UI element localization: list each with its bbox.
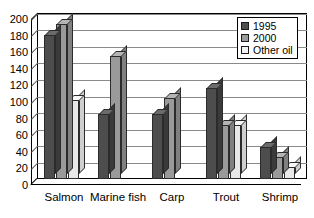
bar-chart: 200180160140120100806040200 SalmonMarine… [0, 0, 314, 218]
y-tick-label: 40 [16, 146, 28, 157]
bar-carp-1995 [152, 114, 163, 179]
bar-front-face [206, 88, 217, 179]
bar-group-marine-fish [91, 13, 145, 179]
bar-side-face [55, 24, 61, 174]
bar-shrimp-1995 [260, 147, 271, 179]
legend-item-2000: 2000 [241, 32, 293, 44]
bar-marine-fish-1995 [98, 114, 109, 179]
y-tick-label: 120 [10, 80, 28, 91]
y-tick-label: 180 [10, 30, 28, 41]
y-tick-label: 60 [16, 130, 28, 141]
legend-item-other-oil: Other oil [241, 44, 293, 56]
x-tick-label-marine-fish: Marine fish [90, 190, 146, 204]
light-gray-swatch [241, 46, 249, 54]
bar-side-face [67, 13, 73, 174]
x-tick-label-salmon: Salmon [45, 190, 84, 204]
bar-front-face [98, 114, 109, 179]
y-tick-label: 160 [10, 47, 28, 58]
legend-label: 1995 [253, 21, 276, 32]
bar-side-face [175, 87, 181, 174]
bar-front-face [260, 147, 271, 179]
bar-group-salmon [37, 13, 91, 179]
bar-side-face [283, 146, 289, 174]
dark-gray-swatch [241, 22, 249, 30]
bar-side-face [79, 89, 85, 174]
bar-front-face [44, 35, 55, 179]
y-tick-label: 200 [10, 14, 28, 25]
medium-gray-swatch [241, 34, 249, 42]
x-axis-line [31, 184, 301, 185]
y-tick-label: 140 [10, 63, 28, 74]
bar-trout-1995 [206, 88, 217, 179]
legend-label: 2000 [253, 33, 276, 44]
y-tick-label: 20 [16, 163, 28, 174]
legend: 19952000Other oil [237, 17, 298, 59]
bar-side-face [121, 45, 127, 174]
y-tick-label: 100 [10, 97, 28, 108]
x-axis: SalmonMarine fishCarpTroutShrimp [31, 190, 307, 210]
x-tick-label-shrimp: Shrimp [262, 190, 298, 204]
legend-item-1995: 1995 [241, 20, 293, 32]
bar-side-face [217, 77, 223, 174]
y-tick-label: 80 [16, 113, 28, 124]
x-tick-label-carp: Carp [160, 190, 185, 204]
y-axis: 200180160140120100806040200 [0, 0, 30, 218]
bar-salmon-1995 [44, 35, 55, 179]
bar-front-face [152, 114, 163, 179]
legend-label: Other oil [253, 45, 293, 56]
bar-group-carp [145, 13, 199, 179]
x-tick-label-trout: Trout [213, 190, 239, 204]
